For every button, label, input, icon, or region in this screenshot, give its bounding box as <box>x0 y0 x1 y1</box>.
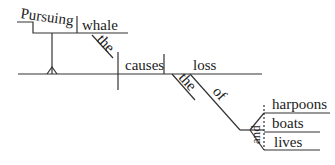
preposition-line <box>190 74 240 130</box>
word-the-1: the <box>94 31 118 56</box>
word-boats: boats <box>272 115 304 131</box>
sentence-diagram: Pursuing whale the causes loss the of an… <box>0 0 335 165</box>
word-harpoons: harpoons <box>272 96 327 112</box>
word-causes: causes <box>125 57 164 73</box>
word-loss: loss <box>193 57 217 73</box>
word-and: and <box>248 125 263 144</box>
word-pursuing: Pursuing <box>20 5 76 28</box>
word-whale: whale <box>82 17 118 33</box>
word-lives: lives <box>274 134 302 150</box>
